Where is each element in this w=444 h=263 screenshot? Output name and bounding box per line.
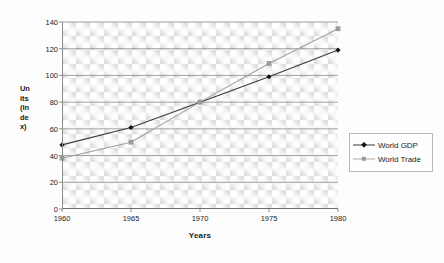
data-point-square[interactable] [267,61,272,66]
data-point-square[interactable] [60,156,65,161]
data-point-square[interactable] [129,140,134,145]
line-chart: Un its (In de x) 020406080100120140 1960… [0,0,444,263]
legend-label: World Trade [378,155,421,164]
x-axis-tick-label: 1975 [261,214,278,223]
data-point-diamond[interactable] [266,74,271,79]
series-line [62,29,338,159]
data-point-diamond[interactable] [128,125,133,130]
x-axis-title: Years [62,231,338,240]
series-line [62,50,338,145]
x-axis-tick-label: 1965 [123,214,140,223]
data-point-square[interactable] [336,26,341,31]
x-axis-tick-label: 1980 [330,214,347,223]
legend-marker-diamond-icon [353,140,375,150]
x-axis-tick-label: 1960 [54,214,71,223]
legend-item-world-trade[interactable]: World Trade [353,152,429,166]
plot-area [62,22,338,209]
legend-marker-square-icon [353,154,375,164]
plot-series-svg [62,22,338,209]
legend-label: World GDP [378,141,418,150]
legend: World GDP World Trade [349,133,433,172]
x-axis-tick-label: 1970 [192,214,209,223]
data-point-square[interactable] [198,100,203,105]
legend-item-world-gdp[interactable]: World GDP [353,138,429,152]
